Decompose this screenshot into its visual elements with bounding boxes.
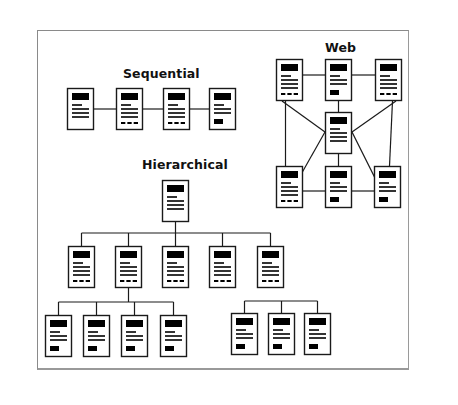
header-block: [73, 251, 90, 258]
button-block-icon: [330, 197, 339, 202]
header-block: [273, 318, 290, 325]
button-block-icon: [273, 344, 282, 349]
web-page-1: [277, 60, 303, 101]
web-page-6: [326, 167, 352, 208]
title-web: Web: [325, 40, 356, 55]
title-sequential: Sequential: [123, 66, 200, 81]
button-block-icon: [165, 346, 174, 351]
sequential-page-3: [164, 89, 190, 130]
header-block: [72, 93, 89, 100]
button-block-icon: [50, 346, 59, 351]
header-block: [330, 171, 347, 178]
header-block: [236, 318, 253, 325]
web-page-7: [375, 167, 401, 208]
hierarchical-level2-right-page-2: [269, 314, 295, 355]
header-block: [167, 251, 184, 258]
hierarchical-level1-page-1: [69, 247, 95, 288]
web-page-5: [277, 167, 303, 208]
header-block: [330, 117, 347, 124]
web-page-3: [376, 60, 402, 101]
sequential-page-2: [117, 89, 143, 130]
hierarchical-level2-right-page-3: [305, 314, 331, 355]
hierarchical-level2-left-page-3: [122, 316, 148, 357]
button-block-icon: [330, 90, 339, 95]
hierarchical-level2-left-page-2: [84, 316, 110, 357]
hierarchical-level2-left-page-4: [161, 316, 187, 357]
header-block: [126, 320, 143, 327]
connector-line: [352, 132, 376, 180]
hierarchical-level1-page-2: [116, 247, 142, 288]
hierarchical-root-page: [163, 181, 189, 222]
button-block-icon: [214, 119, 223, 124]
header-block: [330, 64, 347, 71]
button-block-icon: [309, 344, 318, 349]
header-block: [121, 93, 138, 100]
button-block-icon: [126, 346, 135, 351]
header-block: [214, 251, 231, 258]
button-block-icon: [379, 197, 388, 202]
header-block: [168, 93, 185, 100]
header-block: [281, 171, 298, 178]
header-block: [88, 320, 105, 327]
header-block: [214, 93, 231, 100]
header-block: [281, 64, 298, 71]
button-block-icon: [236, 344, 245, 349]
header-block: [380, 64, 397, 71]
button-block-icon: [88, 346, 97, 351]
sequential-page-1: [68, 89, 94, 130]
hierarchical-level1-page-4: [210, 247, 236, 288]
page-icons: [46, 60, 402, 357]
header-block: [262, 251, 279, 258]
hierarchical-level1-page-3: [163, 247, 189, 288]
hierarchical-level2-left-page-1: [46, 316, 72, 357]
header-block: [50, 320, 67, 327]
header-block: [379, 171, 396, 178]
header-block: [120, 251, 137, 258]
hierarchical-level2-right-page-1: [232, 314, 258, 355]
title-hierarchical: Hierarchical: [142, 157, 228, 172]
connector-line: [282, 101, 325, 132]
connector-line: [390, 101, 393, 166]
web-page-2: [326, 60, 352, 101]
site-structure-diagram: [0, 0, 458, 405]
header-block: [309, 318, 326, 325]
connector-line: [352, 101, 396, 132]
header-block: [167, 185, 184, 192]
web-page-4: [326, 113, 352, 154]
header-block: [165, 320, 182, 327]
hierarchical-level1-page-5: [258, 247, 284, 288]
sequential-page-4: [210, 89, 236, 130]
